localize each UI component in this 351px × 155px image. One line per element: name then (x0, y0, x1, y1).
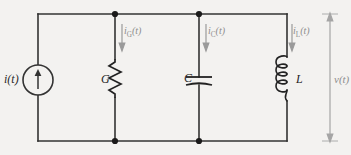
junction-dot-g-top (112, 11, 118, 17)
junction-dot-g-bottom (112, 138, 118, 144)
voltage-label: v(t) (334, 74, 349, 85)
component-label-l: L (296, 73, 303, 85)
resistor-g-symbol[interactable] (109, 59, 121, 98)
current-arrow-l-head (289, 43, 295, 51)
current-label-ig: iG(t) (124, 26, 141, 39)
circuit-figure: i(t) G C L iG(t) iC(t) iL(t) v(t) (0, 0, 351, 155)
inductor-l-symbol[interactable] (276, 56, 287, 101)
current-arrow-g-head (119, 43, 125, 51)
current-label-il-arg: (t) (300, 25, 309, 36)
current-label-il: iL(t) (293, 26, 310, 39)
current-arrow-c-head (203, 43, 209, 51)
component-label-c: C (184, 72, 192, 84)
current-label-ig-arg: (t) (132, 25, 141, 36)
component-label-g: G (101, 73, 110, 85)
current-source-symbol[interactable] (23, 65, 53, 95)
circuit-wires (38, 14, 287, 141)
junction-dot-c-bottom (196, 138, 202, 144)
current-label-ic-arg: (t) (216, 25, 225, 36)
branch-current-arrows (119, 24, 295, 51)
source-label: i(t) (4, 73, 19, 85)
junction-dot-c-top (196, 11, 202, 17)
inductor-loop-4 (276, 80, 287, 92)
current-label-ic: iC(t) (208, 26, 225, 39)
